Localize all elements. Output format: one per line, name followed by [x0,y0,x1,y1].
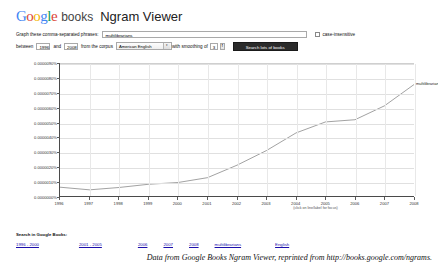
x-tick-mark [207,197,208,200]
smoothing-stepper[interactable]: ▲ ▼ [220,43,225,50]
y-tick-mark [57,137,60,138]
chevron-down-icon: ▾ [163,43,170,49]
figure-caption: Data from Google Books Ngram Viewer, rep… [0,253,432,262]
case-insensitive-checkbox[interactable] [315,32,320,37]
and-label: and [53,44,61,49]
gridline-vertical [90,64,91,196]
x-tick-mark [296,197,297,200]
phrases-input[interactable]: multilibrarians [102,31,307,38]
x-tick-mark [59,197,60,200]
x-tick-label: 2008 [409,201,418,206]
gridline-vertical [208,64,209,196]
focus-hint-note: (click on line/label for focus) [293,206,337,210]
gridline-vertical [119,64,120,196]
y-tick-mark [57,182,60,183]
y-axis-line [59,63,60,197]
x-tick-mark [355,197,356,200]
y-tick-label: 0.0000060% [34,105,57,110]
footer-link[interactable]: 2001 - 2005 [79,242,102,247]
start-year-input[interactable]: 1996 [36,43,50,50]
x-tick-mark [325,197,326,200]
y-tick-label: 0.0000020% [34,165,57,170]
y-tick-mark [57,78,60,79]
y-tick-mark [57,63,60,64]
search-in-google-books-section: Search in Google Books: 1996 - 20002001 … [16,232,422,247]
corpus-select-value: American English [119,44,152,49]
x-tick-label: 2002 [232,201,241,206]
x-tick-label: 2001 [202,201,211,206]
footer-link[interactable]: multilibrarians [215,242,242,247]
y-tick-label: 0.0000030% [34,150,57,155]
gridline-vertical [326,64,327,196]
gridline-vertical [297,64,298,196]
phrases-row: Graph these comma-separated phrases: mul… [16,29,422,39]
x-tick-mark [414,197,415,200]
footer-link[interactable]: 1996 - 2000 [16,242,39,247]
x-tick-label: 1998 [114,201,123,206]
x-tick-mark [118,197,119,200]
gridline-vertical [238,64,239,196]
footer-link[interactable]: 2007 [163,242,173,247]
x-tick-label: 1996 [54,201,63,206]
y-tick-label: 0.0000000% [34,195,57,200]
ngram-chart: 0.0000090%0.0000080%0.0000070%0.0000060%… [16,57,422,215]
x-tick-label: 1999 [143,201,152,206]
series-label-multilibrarians[interactable]: multilibrarians [416,81,438,86]
x-tick-label: 2000 [173,201,182,206]
y-tick-label: 0.0000010% [34,180,57,185]
footer-link[interactable]: English [275,242,289,247]
x-tick-mark [266,197,267,200]
y-tick-mark [57,123,60,124]
corpus-label: from the corpus [81,44,113,49]
phrases-label: Graph these comma-separated phrases: [16,32,98,37]
case-insensitive-label: case-insensitive [322,32,355,37]
y-tick-mark [57,167,60,168]
y-tick-mark [57,93,60,94]
x-tick-label: 1997 [84,201,93,206]
x-tick-mark [237,197,238,200]
footer-heading: Search in Google Books: [16,232,422,237]
between-label: between [16,44,33,49]
x-tick-label: 2006 [350,201,359,206]
y-tick-label: 0.0000090% [34,61,57,66]
end-year-input[interactable]: 2008 [64,43,78,50]
footer-link[interactable]: 2008 [189,242,199,247]
footer-link[interactable]: 2006 [138,242,148,247]
x-tick-label: 2007 [380,201,389,206]
gridline-vertical [178,64,179,196]
range-row: between 1996 and 2008 from the corpus Am… [16,41,422,51]
google-wordmark: Google [16,8,57,25]
gridline-vertical [267,64,268,196]
gridline-vertical [149,64,150,196]
search-button[interactable]: Search lots of books [233,42,298,51]
plot-area [59,63,414,197]
y-axis-labels: 0.0000090%0.0000080%0.0000070%0.0000060%… [16,57,57,215]
x-tick-mark [177,197,178,200]
y-tick-mark [57,108,60,109]
stepper-down-icon[interactable]: ▼ [221,46,224,49]
y-tick-mark [57,152,60,153]
corpus-select[interactable]: American English ▾ [116,42,172,50]
page-title: Ngram Viewer [100,9,182,24]
gridline-vertical [385,64,386,196]
app-logo-header: Google books Ngram Viewer [16,8,182,25]
y-tick-label: 0.0000050% [34,120,57,125]
smoothing-input[interactable]: 3 [210,43,218,50]
y-tick-label: 0.0000080% [34,75,57,80]
y-tick-label: 0.0000070% [34,90,57,95]
smoothing-label: with smoothing of [172,44,208,49]
y-tick-label: 0.0000040% [34,135,57,140]
books-label: books [61,10,93,24]
x-tick-mark [89,197,90,200]
gridline-vertical [356,64,357,196]
x-tick-label: 2003 [262,201,271,206]
query-form: Graph these comma-separated phrases: mul… [16,29,422,51]
x-tick-mark [148,197,149,200]
footer-link-row: 1996 - 20002001 - 2005200620072008multil… [16,242,422,247]
case-insensitive-control[interactable]: case-insensitive [315,32,355,37]
x-tick-mark [384,197,385,200]
